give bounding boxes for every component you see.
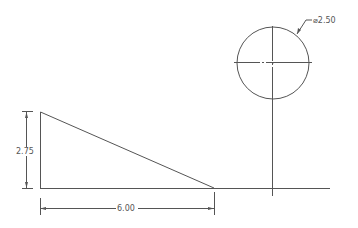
width-dimension-label: 6.00 (117, 204, 135, 213)
diameter-dimension-label: ⌀2.50 (313, 16, 336, 25)
triangle-hypotenuse (41, 112, 215, 188)
technical-drawing: 2.75 6.00 ⌀2.50 (0, 0, 358, 228)
height-arrow-top (25, 112, 28, 118)
width-arrow-right (208, 207, 214, 210)
height-arrow-bottom (25, 182, 28, 188)
height-dimension-label: 2.75 (16, 147, 34, 156)
diameter-leader (297, 20, 312, 34)
drawing-svg (0, 0, 358, 228)
circle-center-mark (272, 62, 274, 64)
